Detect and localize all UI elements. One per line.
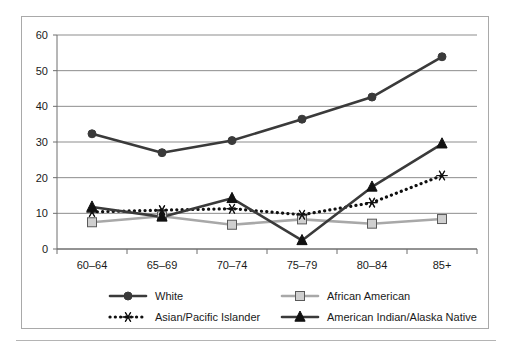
x-tick-label: 60–64 [77, 259, 108, 271]
x-tick-label: 85+ [433, 259, 452, 271]
y-tick-labels: 0102030405060 [36, 29, 48, 255]
x-tick-label: 70–74 [217, 259, 248, 271]
x-axis [57, 249, 477, 254]
marker-square [298, 215, 307, 224]
markers [87, 138, 447, 245]
marker-asterisk [437, 171, 448, 181]
legend-item-african-american[interactable]: African American [282, 290, 410, 302]
marker-diamond [228, 137, 236, 145]
marker-triangle [87, 201, 97, 211]
figure: 0102030405060 60–6465–6970–7475–7980–848… [0, 0, 512, 350]
marker-diamond [158, 149, 166, 157]
marker-square [438, 215, 447, 224]
legend-label: Asian/Pacific Islander [155, 311, 260, 323]
marker-triangle [437, 138, 447, 148]
marker-triangle [227, 192, 237, 202]
legend-label: American Indian/Alaska Native [327, 311, 477, 323]
legend-item-white[interactable]: White [110, 290, 183, 302]
legend-item-american-indian-alaska-native[interactable]: American Indian/Alaska Native [282, 311, 477, 323]
marker-square [228, 220, 237, 229]
series-line [92, 176, 442, 215]
x-tick-labels: 60–6465–6970–7475–7980–8485+ [77, 259, 452, 271]
marker-diamond [88, 130, 96, 138]
markers [88, 53, 446, 157]
legend: WhiteAfrican AmericanAsian/Pacific Islan… [110, 290, 477, 323]
y-tick-label: 10 [36, 207, 48, 219]
marker-square [88, 218, 97, 227]
x-tick-label: 65–69 [147, 259, 178, 271]
y-tick-label: 40 [36, 100, 48, 112]
x-tick-label: 75–79 [287, 259, 318, 271]
y-tick-label: 20 [36, 172, 48, 184]
marker-asterisk [367, 198, 378, 208]
marker-diamond [438, 53, 446, 61]
legend-item-asian-pacific-islander[interactable]: Asian/Pacific Islander [110, 311, 260, 323]
marker-diamond [368, 93, 376, 101]
y-tick-label: 30 [36, 136, 48, 148]
marker-asterisk [227, 204, 238, 214]
y-tick-label: 50 [36, 65, 48, 77]
y-axis [53, 35, 57, 249]
series-layer [87, 53, 448, 245]
marker-square [296, 292, 305, 301]
legend-label: White [155, 290, 183, 302]
marker-asterisk [123, 312, 134, 322]
marker-diamond [124, 292, 132, 300]
series-american-indian-alaska-native [92, 144, 442, 241]
series-asian-pacific-islander [92, 176, 442, 215]
y-tick-label: 60 [36, 29, 48, 41]
series-line [92, 144, 442, 241]
legend-label: African American [327, 290, 410, 302]
line-chart: 0102030405060 60–6465–6970–7475–7980–848… [0, 0, 512, 350]
x-tick-label: 80–84 [357, 259, 388, 271]
marker-square [368, 219, 377, 228]
y-tick-label: 0 [42, 243, 48, 255]
marker-diamond [298, 115, 306, 123]
